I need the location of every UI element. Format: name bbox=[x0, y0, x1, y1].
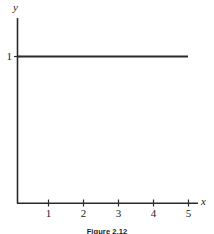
x-axis-label: x bbox=[201, 196, 206, 207]
x-tick-label-5: 5 bbox=[180, 208, 198, 219]
figure-container: y x 1 1 2 3 4 5 Figure 2.12 bbox=[0, 0, 214, 234]
x-tick-label-4: 4 bbox=[145, 208, 163, 219]
figure-caption: Figure 2.12 bbox=[0, 227, 214, 234]
x-tick-label-3: 3 bbox=[110, 208, 128, 219]
plot-canvas bbox=[0, 0, 214, 234]
y-tick-label-1: 1 bbox=[0, 51, 12, 62]
x-tick-label-2: 2 bbox=[75, 208, 93, 219]
y-axis-label: y bbox=[13, 2, 18, 13]
x-tick-label-1: 1 bbox=[40, 208, 58, 219]
